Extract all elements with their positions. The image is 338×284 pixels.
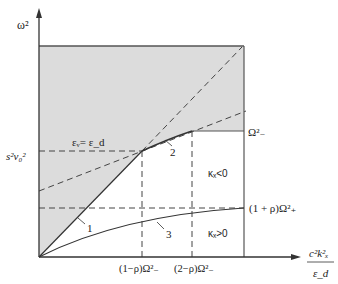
dispersion-diagram: ω² s²v₀² εᵥ= ε_d 1 2 3 Ω²₋ (1 + ρ)Ω²₊ κₓ… [0,0,338,284]
x-axis-label-numerator: c²k²ₓ [309,247,329,259]
one-plus-rho-label: (1 + ρ)Ω²₊ [249,202,296,215]
y-tick-label: s²v₀² [6,150,26,162]
y-axis-arrow-icon [36,8,42,18]
curve-1-leader [78,218,85,224]
region-label-kappa-negative: κₓ<0 [208,168,228,179]
region-label-kappa-positive: κₓ>0 [208,228,228,239]
curve-3-leader [157,222,164,229]
x-axis-arrow-icon [291,254,301,260]
curve-label-2: 2 [170,146,176,158]
line-label-eps-equal: εᵥ= ε_d [72,136,105,148]
y-axis-label: ω² [17,18,29,32]
omega-minus-label: Ω²₋ [248,126,265,138]
x-tick-label-1: (1−ρ)Ω²₋ [119,263,159,275]
curve-label-1: 1 [87,222,93,234]
x-axis-label-denominator: ε_d [313,267,329,279]
curve-label-3: 3 [166,228,172,240]
x-tick-label-2: (2−ρ)Ω²₋ [174,263,214,275]
